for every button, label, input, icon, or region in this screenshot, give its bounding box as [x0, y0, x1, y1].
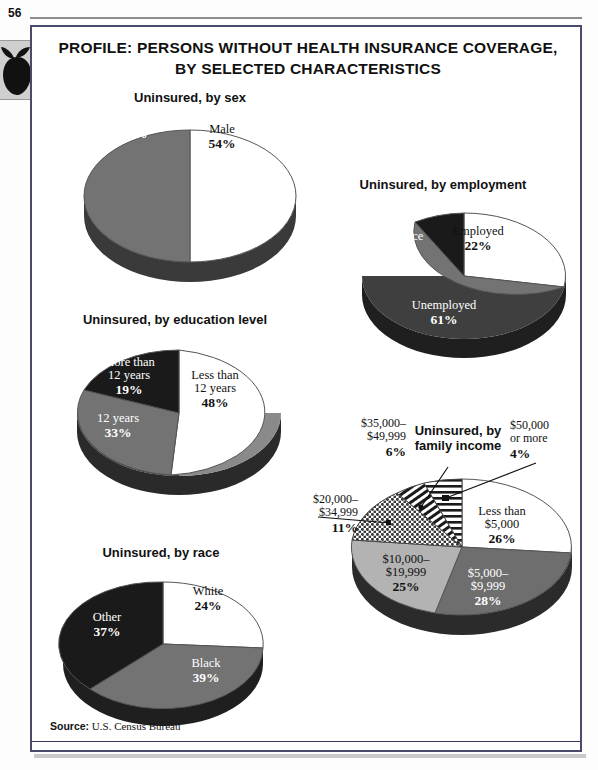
source-text: U.S. Census Bureau	[92, 720, 181, 732]
page-canvas: 56 PROFILE: PERSONS WITHOUT HEALTH INSUR…	[0, 0, 598, 770]
pie-chart-sex	[74, 111, 306, 281]
chart-title-race: Uninsured, by race	[46, 545, 276, 560]
slice-name-50000-or-more-line2: or more	[510, 431, 548, 445]
chart-title-sex: Uninsured, by sex	[90, 90, 290, 105]
pie-chart-race	[58, 564, 268, 732]
chart-title-education: Uninsured, by education level	[50, 312, 300, 327]
pie-chart-education	[70, 333, 288, 499]
source-divider	[32, 741, 580, 742]
slice-pct-50000-or-more: 4%	[510, 447, 594, 460]
page-title-line1: PROFILE: PERSONS WITHOUT HEALTH INSURANC…	[58, 39, 557, 56]
slice-label-20000-34999: $20,000– $34,999 11%	[276, 493, 358, 534]
page-number: 56	[8, 6, 22, 20]
source-label: Source:	[50, 720, 89, 732]
slice-name-50000-or-more-line1: $50,000	[510, 418, 549, 432]
chart-title-employment: Uninsured, by employment	[328, 177, 558, 192]
slice-label-35000-49999: $35,000– $49,999 6%	[320, 417, 406, 458]
slice-name-35000-49999-line2: $49,999	[367, 429, 406, 443]
slice-name-20000-34999-line2: $34,999	[319, 505, 358, 519]
top-rule	[30, 17, 582, 19]
slice-name-35000-49999-line1: $35,000–	[361, 416, 406, 430]
pie-chart-employment	[356, 197, 572, 359]
frame-shadow	[34, 754, 586, 758]
apple-icon	[1, 45, 32, 97]
slice-pct-20000-34999: 11%	[276, 521, 358, 534]
slice-pct-35000-49999: 6%	[320, 445, 406, 458]
chart-frame: PROFILE: PERSONS WITHOUT HEALTH INSURANC…	[30, 25, 582, 752]
margin-badge	[0, 40, 33, 100]
page-title-line2: BY SELECTED CHARACTERISTICS	[175, 60, 441, 77]
source-note: Source: U.S. Census Bureau	[50, 720, 180, 732]
pie-chart-income	[336, 443, 586, 643]
chart-title-income-line1: Uninsured, by	[415, 423, 502, 438]
page-title: PROFILE: PERSONS WITHOUT HEALTH INSURANC…	[54, 37, 562, 79]
slice-name-20000-34999-line1: $20,000–	[313, 492, 358, 506]
slice-label-50000-or-more: $50,000 or more 4%	[510, 419, 594, 460]
